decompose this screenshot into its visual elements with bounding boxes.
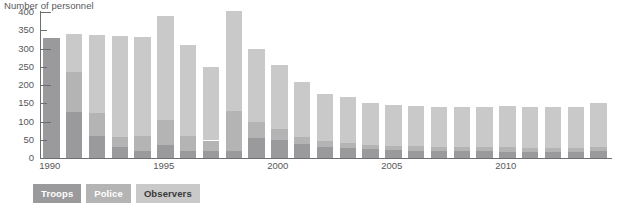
bar-segment-troops [89, 136, 105, 158]
y-axis-labels: 400350300250200150100500 [0, 0, 34, 222]
bar-segment-observers [294, 82, 310, 137]
x-axis-tick-label: 2000 [267, 160, 288, 172]
bar[interactable] [385, 105, 401, 158]
bar-segment-observers [226, 11, 242, 110]
bar-segment-troops [431, 151, 447, 158]
bar-segment-troops [362, 149, 378, 158]
bar-segment-police [271, 129, 287, 140]
plot-area [40, 12, 610, 158]
bar[interactable] [112, 36, 128, 158]
bar[interactable] [545, 107, 561, 158]
y-axis-tick-label: 200 [18, 80, 34, 90]
bar-segment-observers [134, 37, 150, 136]
y-axis-tick-label: 150 [18, 98, 34, 108]
bar-segment-observers [271, 65, 287, 129]
bar-segment-observers [89, 35, 105, 113]
bar[interactable] [362, 103, 378, 158]
bar-segment-police [522, 148, 538, 152]
y-axis-tick [40, 140, 47, 141]
bar-segment-police [226, 111, 242, 151]
y-axis-tick [40, 12, 51, 13]
bar-segment-troops [590, 151, 606, 158]
bar-segment-police [362, 145, 378, 149]
bar-segment-observers [522, 107, 538, 148]
bar[interactable] [271, 65, 287, 158]
bar[interactable] [89, 35, 105, 158]
y-axis-tick-label: 350 [18, 25, 34, 35]
y-axis-tick [40, 103, 47, 104]
bar[interactable] [66, 34, 82, 158]
bar-segment-police [340, 143, 356, 148]
bar[interactable] [476, 107, 492, 158]
x-axis-labels: 19901995200020052010 [40, 160, 620, 174]
y-axis-tick-label: 100 [18, 117, 34, 127]
bar-segment-observers [203, 67, 219, 141]
bar-segment-police [66, 72, 82, 112]
bar[interactable] [180, 45, 196, 158]
bar[interactable] [568, 107, 584, 158]
bar[interactable] [294, 82, 310, 158]
bar[interactable] [157, 16, 173, 158]
bar-segment-observers [545, 107, 561, 148]
bar[interactable] [408, 106, 424, 158]
bar[interactable] [454, 107, 470, 158]
legend-label: Troops [41, 184, 73, 203]
bar-segment-police [89, 113, 105, 136]
bar[interactable] [317, 94, 333, 158]
bar-segment-troops [226, 151, 242, 158]
bar-segment-troops [203, 151, 219, 158]
bar[interactable] [203, 67, 219, 158]
bars-container [40, 12, 610, 158]
bar-segment-troops [180, 151, 196, 158]
bar-segment-observers [590, 103, 606, 146]
bar-segment-observers [112, 36, 128, 136]
bar-segment-observers [476, 107, 492, 147]
bar-segment-observers [157, 16, 173, 120]
bar[interactable] [226, 11, 242, 158]
bar-segment-troops [271, 140, 287, 158]
bar-segment-police [476, 147, 492, 151]
bar[interactable] [134, 37, 150, 158]
y-axis-tick [40, 158, 51, 159]
bar[interactable] [431, 107, 447, 158]
bar-segment-observers [317, 94, 333, 141]
bar-segment-observers [431, 107, 447, 147]
y-axis-tick-label: 300 [18, 44, 34, 54]
bar-segment-troops [545, 152, 561, 158]
y-axis-tick [40, 49, 51, 50]
bar-segment-observers [340, 97, 356, 143]
bar-segment-observers [248, 49, 264, 121]
legend-item-troops[interactable]: Troops [33, 184, 81, 203]
bar[interactable] [340, 97, 356, 158]
bar[interactable] [522, 107, 538, 158]
chart-legend: TroopsPoliceObservers [33, 184, 200, 203]
bar-segment-observers [180, 45, 196, 136]
bar-segment-police [180, 136, 196, 151]
bar-segment-police [408, 146, 424, 150]
bar-segment-observers [454, 107, 470, 147]
bar-segment-observers [66, 34, 82, 72]
x-axis-line [40, 158, 612, 159]
bar[interactable] [248, 49, 264, 158]
bar-segment-police [203, 141, 219, 152]
bar-segment-observers [499, 106, 515, 147]
bar-segment-troops [340, 148, 356, 158]
legend-item-police[interactable]: Police [86, 184, 131, 203]
bar-segment-troops [568, 152, 584, 158]
x-axis-tick-label: 1995 [153, 160, 174, 172]
bar-segment-troops [476, 151, 492, 158]
legend-item-observers[interactable]: Observers [136, 184, 200, 203]
chart-root: Number of personnel 40035030025020015010… [0, 0, 624, 222]
bar-segment-troops [248, 138, 264, 158]
x-axis-tick-label: 2005 [381, 160, 402, 172]
bar-segment-observers [408, 106, 424, 146]
bar-segment-troops [157, 145, 173, 158]
bar-segment-observers [568, 107, 584, 148]
bar-segment-police [499, 147, 515, 151]
bar[interactable] [590, 103, 606, 158]
bar-segment-troops [294, 144, 310, 158]
y-axis-tick [40, 67, 47, 68]
y-axis-tick [40, 85, 51, 86]
bar-segment-troops [522, 152, 538, 158]
bar[interactable] [499, 106, 515, 158]
